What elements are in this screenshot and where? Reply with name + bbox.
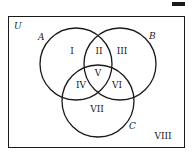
set-a-label: A	[37, 32, 45, 42]
region-iv-label: IV	[76, 80, 87, 90]
region-iii-label: III	[117, 46, 128, 56]
region-vii-label: VII	[89, 104, 104, 114]
universe-label: U	[14, 21, 22, 31]
venn-diagram: U A B C I II III IV V VI VII VIII	[0, 0, 192, 154]
region-ii-label: II	[95, 46, 103, 56]
region-v-label: V	[94, 68, 102, 78]
set-b-label: B	[148, 31, 156, 41]
set-c-label: C	[129, 121, 136, 131]
region-i-label: I	[70, 46, 74, 56]
region-viii-label: VIII	[153, 131, 172, 141]
corner-mark	[172, 2, 185, 6]
region-vi-label: VI	[111, 80, 122, 90]
